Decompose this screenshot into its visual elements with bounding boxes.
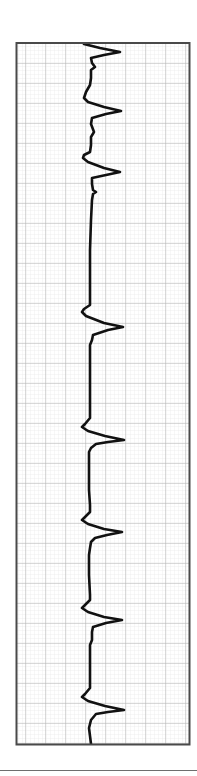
ecg-strip (0, 0, 197, 776)
bottom-separator-line (0, 770, 197, 771)
grid-paper (17, 43, 189, 744)
